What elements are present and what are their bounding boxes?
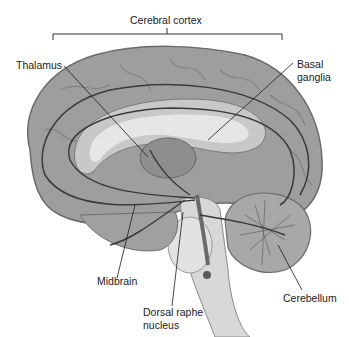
label-midbrain: Midbrain — [97, 275, 137, 287]
brain-diagram — [0, 0, 349, 337]
label-cerebral-cortex: Cerebral cortex — [130, 14, 202, 26]
label-basal-ganglia-1: Basal — [297, 58, 323, 70]
raphe-nucleus — [203, 271, 211, 279]
label-dorsal-raphe-2: nucleus — [143, 319, 179, 331]
label-basal-ganglia-2: ganglia — [297, 71, 331, 83]
label-dorsal-raphe-1: Dorsal raphe — [143, 306, 203, 318]
cortex-bracket — [53, 28, 282, 40]
cerebellum-structure — [225, 193, 311, 272]
thalamus-structure — [140, 138, 196, 178]
label-thalamus: Thalamus — [16, 59, 62, 71]
label-cerebellum: Cerebellum — [283, 292, 337, 304]
